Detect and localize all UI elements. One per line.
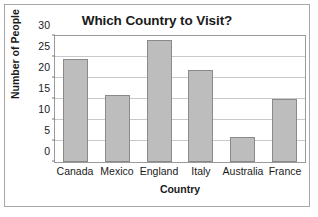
bar-slot — [138, 36, 180, 162]
y-axis-title: Number of People — [9, 9, 21, 99]
x-axis-tick-labels: CanadaMexicoEnglandItalyAustraliaFrance — [54, 165, 306, 177]
chart-frame: Which Country to Visit? Number of People… — [4, 4, 310, 207]
bar[interactable] — [105, 95, 130, 162]
bar-slot — [180, 36, 222, 162]
bar[interactable] — [147, 40, 172, 162]
y-tick-label: 0 — [44, 145, 50, 157]
chart-title: Which Country to Visit? — [5, 13, 309, 28]
x-tick-label: Mexico — [96, 165, 138, 177]
y-tick-label: 5 — [44, 124, 50, 136]
bar-series — [55, 36, 305, 162]
bar[interactable] — [63, 59, 88, 162]
x-axis-title: Country — [54, 183, 306, 195]
x-tick-label: Canada — [54, 165, 96, 177]
y-tick-label: 30 — [38, 19, 50, 31]
bar-slot — [97, 36, 139, 162]
y-tick-label: 25 — [38, 40, 50, 52]
plot-area: 051015202530 — [54, 35, 306, 163]
bar[interactable] — [230, 137, 255, 162]
bar-slot — [222, 36, 264, 162]
y-tick-label: 15 — [38, 82, 50, 94]
y-tick-label: 20 — [38, 61, 50, 73]
bar[interactable] — [188, 70, 213, 162]
x-tick-label: France — [264, 165, 306, 177]
x-tick-label: Italy — [180, 165, 222, 177]
bar[interactable] — [272, 99, 297, 162]
x-tick-label: Australia — [222, 165, 264, 177]
bar-slot — [263, 36, 305, 162]
x-tick-label: England — [138, 165, 180, 177]
y-tick-label: 10 — [38, 103, 50, 115]
bar-slot — [55, 36, 97, 162]
